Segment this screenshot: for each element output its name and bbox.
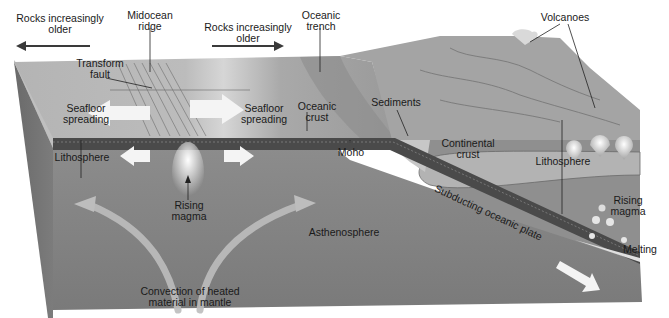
label-transform-fault: Transform fault xyxy=(74,58,126,80)
label-seafloor-spreading-right: Seafloor spreading xyxy=(236,103,292,125)
label-lithosphere-right: Lithosphere xyxy=(532,156,594,167)
label-moho: Moho xyxy=(336,147,366,158)
label-rocks-older-left: Rocks increasingly older xyxy=(10,13,110,35)
label-melting: Melting xyxy=(618,244,662,255)
label-midocean-ridge: Midocean ridge xyxy=(122,10,178,32)
label-rocks-older-right: Rocks increasingly older xyxy=(198,22,298,44)
label-oceanic-trench: Oceanic trench xyxy=(298,10,344,32)
label-oceanic-crust: Oceanic crust xyxy=(296,101,338,123)
label-lithosphere-left: Lithosphere xyxy=(52,152,112,163)
label-asthenosphere: Asthenosphere xyxy=(306,227,382,238)
label-sediments: Sediments xyxy=(366,97,426,108)
label-convection: Convection of heated material in mantle xyxy=(138,286,242,308)
label-rising-magma-right: Rising magma xyxy=(608,195,648,217)
label-continental-crust: Continental crust xyxy=(438,138,498,160)
label-rising-magma-center: Rising magma xyxy=(170,200,208,222)
label-volcanoes: Volcanoes xyxy=(535,12,595,23)
label-seafloor-spreading-left: Seafloor spreading xyxy=(58,103,114,125)
